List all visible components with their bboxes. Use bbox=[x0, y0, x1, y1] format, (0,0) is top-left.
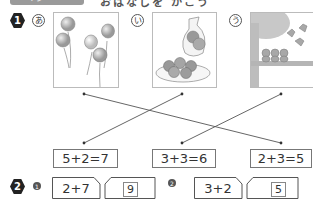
expression-card-2: 3+2 bbox=[194, 179, 242, 198]
equation-box-2: 3+3=6 bbox=[152, 149, 216, 168]
equation-box-3: 2+3=5 bbox=[250, 149, 312, 168]
equation-box-1: 5+2=7 bbox=[53, 149, 118, 168]
expression-card-1: 2+7 bbox=[52, 179, 100, 198]
sub-2-badge: 2 bbox=[168, 179, 176, 187]
matching-lines bbox=[0, 0, 313, 204]
answer-box-1: 9 bbox=[123, 182, 138, 197]
answer-box-2: 5 bbox=[271, 182, 286, 197]
sub-1-badge: 1 bbox=[33, 182, 41, 190]
